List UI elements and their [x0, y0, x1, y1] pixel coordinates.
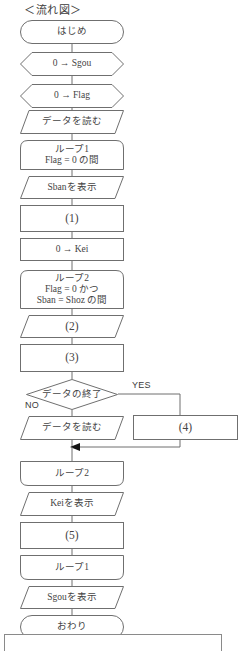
node-read-data-1[interactable]: データを読む — [20, 110, 124, 134]
node-print-kei[interactable]: Keiを表示 — [20, 492, 124, 516]
node-blank-1[interactable]: (1) — [20, 205, 124, 232]
node-start[interactable]: はじめ — [20, 20, 124, 44]
node-init-sgou[interactable]: 0 → Sgou — [20, 52, 124, 76]
node-loop1-start[interactable]: ループ1 Flag = 0 の間 — [20, 140, 124, 170]
node-loop2-end[interactable]: ループ2 — [20, 461, 124, 486]
node-blank-3[interactable]: (3) — [20, 344, 124, 372]
node-read-data-2[interactable]: データを読む — [20, 416, 124, 440]
node-blank-4[interactable]: (4) — [133, 415, 238, 440]
branch-label-yes: YES — [132, 380, 151, 390]
node-init-kei[interactable]: 0 → Kei — [20, 238, 124, 261]
node-init-flag[interactable]: 0 → Flag — [20, 84, 124, 108]
node-decision-eof[interactable]: データの終了 — [26, 379, 118, 410]
node-loop1-end[interactable]: ループ1 — [20, 555, 124, 580]
node-blank-5[interactable]: (5) — [20, 522, 124, 549]
flowchart-diagram: ＜流れ図＞ — [0, 0, 252, 651]
diagram-title: ＜流れ図＞ — [24, 1, 82, 17]
node-blank-2[interactable]: (2) — [20, 315, 124, 338]
node-loop2-start[interactable]: ループ2 Flag = 0 かつ Sban = Shoz の間 — [20, 270, 124, 309]
footer-frame — [4, 634, 222, 651]
node-print-sban[interactable]: Sbanを表示 — [20, 176, 124, 199]
node-print-sgou[interactable]: Sgouを表示 — [20, 586, 124, 609]
